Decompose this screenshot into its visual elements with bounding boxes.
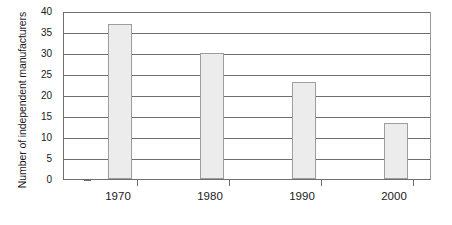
y-tick-label: 25 bbox=[30, 70, 52, 80]
y-axis-tick-labels: 40 35 30 25 20 15 10 5 0 bbox=[30, 12, 52, 180]
x-tick-label-1990: 1990 bbox=[272, 189, 332, 203]
y-tick-label: 30 bbox=[30, 49, 52, 59]
y-tick-label: 20 bbox=[30, 91, 52, 101]
bar-1990 bbox=[292, 82, 316, 179]
y-tick-label: 5 bbox=[30, 154, 52, 164]
x-axis-tick-marks bbox=[63, 180, 431, 187]
y-tick-label: 10 bbox=[30, 133, 52, 143]
x-tick-mark bbox=[229, 180, 230, 186]
y-tick-label: 40 bbox=[30, 7, 52, 17]
y-tick-label: 15 bbox=[30, 112, 52, 122]
x-tick-mark bbox=[137, 180, 138, 186]
plot-area bbox=[63, 12, 431, 180]
bar-2000 bbox=[384, 123, 408, 179]
bar-chart: Number of independent manufacturers 40 3… bbox=[0, 0, 452, 225]
x-tick-mark bbox=[321, 180, 322, 186]
y-tick-label: 0 bbox=[30, 175, 52, 185]
x-tick-label-1980: 1980 bbox=[180, 189, 240, 203]
bar-1980 bbox=[200, 53, 224, 179]
x-tick-label-1970: 1970 bbox=[88, 189, 148, 203]
x-tick-mark bbox=[413, 180, 414, 186]
x-tick-label-2000: 2000 bbox=[364, 189, 424, 203]
bars-layer bbox=[64, 12, 430, 179]
x-axis-tick-labels: 1970 1980 1990 2000 bbox=[63, 189, 431, 205]
bar-1970 bbox=[108, 24, 132, 179]
y-tick-label: 35 bbox=[30, 28, 52, 38]
y-axis-title: Number of independent manufacturers bbox=[14, 5, 30, 195]
